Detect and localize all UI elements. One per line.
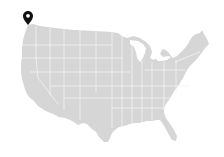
location-pin[interactable] — [23, 11, 33, 25]
us-landmass — [21, 24, 209, 142]
us-map[interactable]: United States (contiguous) Pacific North… — [0, 0, 224, 157]
us-map-svg — [0, 0, 224, 157]
map-pin-icon — [23, 11, 33, 25]
